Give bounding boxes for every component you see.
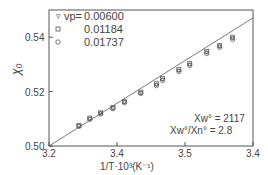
annotation-xw: Xw° = 2117	[194, 113, 245, 124]
circle-marker-icon	[56, 40, 60, 44]
x-axis-ticks: 3.23.43.53.4	[42, 142, 260, 159]
svg-text:3.5: 3.5	[178, 148, 192, 159]
triangle-down-marker-icon: ▿	[56, 11, 61, 21]
legend-entry-1: 0.00600	[84, 10, 124, 22]
svg-text:3.4: 3.4	[110, 148, 124, 159]
annotation-ratio: Xw°/Xn° = 2.8	[170, 125, 233, 136]
svg-text:3.4: 3.4	[246, 148, 260, 159]
x-axis-label: 1/T·10³(K⁻¹)	[100, 161, 154, 172]
svg-text:0.54: 0.54	[25, 32, 45, 43]
chart: 3.23.43.53.4 0.500.520.54 χ₀ 1/T·10³(K⁻¹…	[0, 0, 268, 175]
svg-text:0.50: 0.50	[25, 141, 45, 152]
svg-text:0.52: 0.52	[25, 87, 45, 98]
legend: ▿ vp= 0.00600 0.01184 0.01737	[56, 10, 124, 48]
legend-entry-2: 0.01184	[84, 23, 123, 35]
legend-prefix: vp=	[64, 10, 82, 22]
y-axis-label: χ₀	[9, 63, 23, 76]
legend-entry-3: 0.01737	[84, 36, 124, 48]
square-marker-icon	[56, 27, 60, 31]
